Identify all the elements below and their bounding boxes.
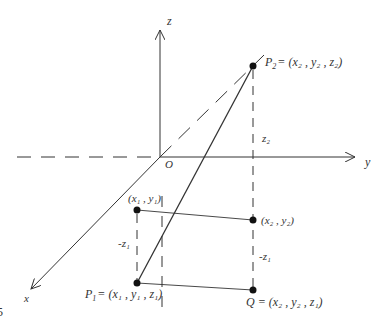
- figure-number-fragment: 5: [0, 305, 3, 319]
- point-p2: [250, 63, 257, 70]
- origin-label: O: [165, 158, 173, 170]
- proj2-label: (x₂ , y₂): [261, 214, 294, 227]
- point-q: [250, 287, 257, 294]
- z2-label: z₂: [261, 132, 270, 144]
- proj1-label: (x₁ , y₁): [128, 192, 161, 205]
- segment-p1-p2: [137, 66, 253, 283]
- p1-label: P1= (x₁ , y₁ , z₁): [84, 287, 162, 303]
- q-label: Q= (x₂ , y₂ , z₁): [246, 295, 323, 309]
- neg-z1-left-label: -z₁: [118, 237, 130, 249]
- y-axis-label: y: [364, 155, 371, 169]
- distance-3d-diagram: z y x O P2= (x₂ , y₂ , z₂) z₂ (x₁ , y₁) …: [0, 0, 379, 326]
- x-axis: [31, 157, 160, 289]
- p2-label: P2= (x₂ , y₂ , z₂): [264, 55, 342, 71]
- segment-proj1-proj2: [137, 210, 253, 220]
- x-axis-label: x: [23, 292, 29, 304]
- point-proj1: [134, 207, 141, 214]
- point-p1: [134, 280, 141, 287]
- z-axis-label: z: [166, 14, 172, 28]
- neg-z1-right-label: -z₁: [259, 250, 271, 262]
- point-proj2: [250, 217, 257, 224]
